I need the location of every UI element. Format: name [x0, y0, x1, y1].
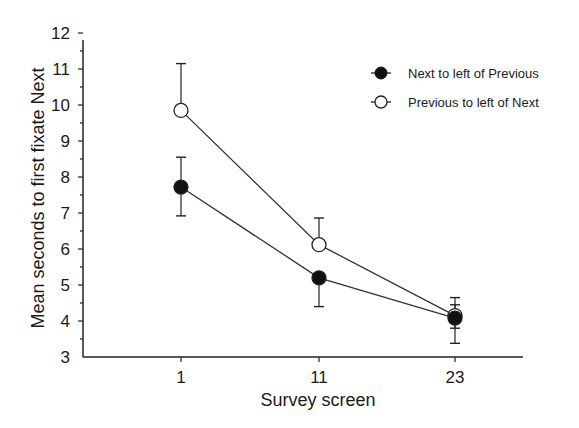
x-tick-label: 11: [310, 368, 328, 387]
series-lines: [181, 110, 455, 318]
line-chart: 3456789101112 11123 Mean seconds to firs…: [0, 0, 579, 428]
filled-circle-marker: [174, 180, 188, 194]
legend-label: Previous to left of Next: [408, 95, 539, 110]
open-circle-icon: [375, 96, 387, 108]
open-circle-marker: [174, 103, 188, 117]
y-tick-label: 12: [51, 24, 70, 43]
x-tick-label: 23: [446, 368, 465, 387]
y-tick-label: 9: [61, 132, 70, 151]
filled-circle-marker: [312, 271, 326, 285]
y-axis-title: Mean seconds to first fixate Next: [28, 67, 48, 328]
legend: Next to left of Previous Previous to lef…: [371, 66, 539, 110]
filled-circle-icon: [375, 67, 387, 79]
legend-label: Next to left of Previous: [408, 66, 539, 81]
x-axis-title: Survey screen: [260, 390, 375, 410]
series-markers: [174, 103, 462, 325]
open-circle-marker: [312, 238, 326, 252]
y-tick-label: 10: [51, 96, 70, 115]
y-tick-label: 8: [61, 168, 70, 187]
filled-circle-marker: [448, 311, 462, 325]
x-axis-ticks: 11123: [176, 357, 464, 387]
y-tick-label: 3: [61, 348, 70, 367]
y-tick-label: 5: [61, 276, 70, 295]
y-tick-label: 7: [61, 204, 70, 223]
y-tick-label: 6: [61, 240, 70, 259]
legend-item-next-left: Next to left of Previous: [371, 66, 539, 81]
y-tick-label: 4: [61, 312, 70, 331]
legend-item-previous-left: Previous to left of Next: [371, 95, 539, 110]
y-tick-label: 11: [52, 60, 70, 79]
x-tick-label: 1: [176, 368, 185, 387]
y-axis-ticks: 3456789101112: [51, 24, 83, 367]
